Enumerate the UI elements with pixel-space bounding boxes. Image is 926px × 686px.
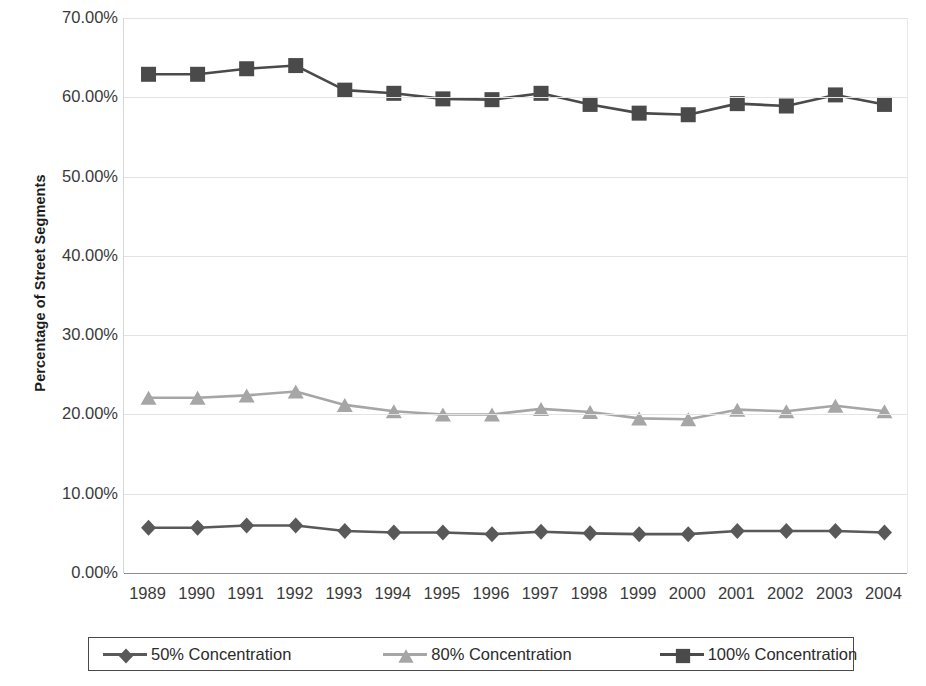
legend-item-label: 50% Concentration bbox=[151, 645, 291, 664]
gridline bbox=[124, 494, 907, 495]
data-point-marker bbox=[730, 96, 745, 111]
legend-item-2[interactable]: 80% Concentration bbox=[383, 645, 571, 664]
line-chart: Percentage of Street Segments 0.00%10.00… bbox=[0, 0, 926, 686]
plot-area bbox=[123, 18, 908, 573]
legend-item-label: 80% Concentration bbox=[431, 645, 571, 664]
y-tick-label: 50.00% bbox=[18, 168, 118, 185]
legend-item-1[interactable]: 50% Concentration bbox=[103, 645, 291, 664]
data-point-marker bbox=[632, 106, 647, 121]
data-point-marker bbox=[190, 67, 205, 82]
data-point-marker bbox=[484, 92, 499, 107]
series-1 bbox=[141, 517, 892, 542]
data-point-marker bbox=[435, 525, 450, 541]
data-point-marker bbox=[583, 97, 598, 112]
y-axis-tick-labels: 0.00%10.00%20.00%30.00%40.00%50.00%60.00… bbox=[10, 0, 118, 686]
chart-legend: 50% Concentration80% Concentration100% C… bbox=[88, 637, 854, 671]
data-point-marker bbox=[877, 97, 892, 112]
series-line bbox=[149, 391, 885, 419]
data-point-marker bbox=[681, 107, 696, 122]
series-line bbox=[149, 525, 885, 534]
y-tick-label: 30.00% bbox=[18, 326, 118, 343]
data-point-marker bbox=[681, 526, 696, 542]
legend-item-label: 100% Concentration bbox=[708, 645, 858, 664]
data-point-marker bbox=[141, 67, 156, 82]
gridline bbox=[124, 256, 907, 257]
data-point-marker bbox=[337, 83, 352, 98]
series-2 bbox=[141, 384, 893, 426]
gridline bbox=[124, 335, 907, 336]
data-point-marker bbox=[386, 86, 401, 101]
y-tick-label: 20.00% bbox=[18, 405, 118, 422]
data-point-marker bbox=[730, 523, 745, 539]
x-axis-line bbox=[124, 573, 907, 574]
data-point-marker bbox=[435, 91, 450, 106]
data-point-marker bbox=[828, 87, 843, 102]
gridline bbox=[124, 177, 907, 178]
plot-series-svg bbox=[124, 18, 909, 573]
data-point-marker bbox=[534, 86, 549, 101]
series-3 bbox=[141, 58, 892, 122]
y-tick-label: 60.00% bbox=[18, 88, 118, 105]
y-tick-label: 70.00% bbox=[18, 9, 118, 26]
data-point-marker bbox=[239, 517, 254, 533]
data-point-marker bbox=[877, 525, 892, 541]
data-point-marker bbox=[288, 58, 303, 73]
series-line bbox=[149, 66, 885, 115]
y-tick-label: 0.00% bbox=[18, 564, 118, 581]
data-point-marker bbox=[779, 523, 794, 539]
data-point-marker bbox=[141, 520, 156, 536]
data-point-marker bbox=[386, 525, 401, 541]
data-point-marker bbox=[288, 517, 303, 533]
x-axis-tick-labels: 1989199019911992199319941995199619971998… bbox=[123, 585, 908, 611]
gridline bbox=[124, 18, 907, 19]
data-point-marker bbox=[632, 526, 647, 542]
data-point-marker bbox=[484, 526, 499, 542]
data-point-marker bbox=[190, 520, 205, 536]
data-point-marker bbox=[583, 525, 598, 541]
data-point-marker bbox=[534, 524, 549, 540]
square-marker-icon bbox=[660, 645, 704, 663]
y-tick-label: 40.00% bbox=[18, 247, 118, 264]
data-point-marker bbox=[239, 61, 254, 76]
data-point-marker bbox=[828, 523, 843, 539]
triangle-marker-icon bbox=[383, 645, 427, 663]
y-tick-label: 10.00% bbox=[18, 485, 118, 502]
gridline bbox=[124, 414, 907, 415]
gridline bbox=[124, 97, 907, 98]
x-tick-label: 2004 bbox=[853, 585, 913, 602]
diamond-marker-icon bbox=[103, 645, 147, 663]
legend-item-3[interactable]: 100% Concentration bbox=[660, 645, 858, 664]
data-point-marker bbox=[779, 99, 794, 114]
data-point-marker bbox=[337, 523, 352, 539]
